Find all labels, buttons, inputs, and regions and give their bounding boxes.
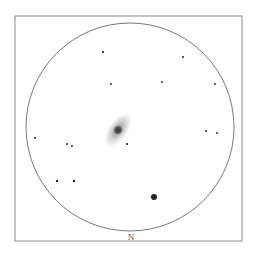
star	[73, 180, 75, 182]
star	[56, 180, 58, 182]
star	[66, 143, 68, 145]
star	[102, 51, 104, 53]
star	[126, 143, 128, 145]
star	[205, 130, 207, 132]
star	[110, 83, 112, 85]
star	[34, 137, 36, 139]
eyepiece-sketch	[0, 0, 255, 253]
north-orientation-label: N	[128, 233, 135, 242]
star	[161, 81, 163, 83]
star	[216, 132, 218, 134]
star	[214, 83, 216, 85]
galaxy-core	[113, 125, 123, 135]
star	[71, 145, 73, 147]
star	[182, 56, 184, 58]
star	[151, 194, 157, 200]
